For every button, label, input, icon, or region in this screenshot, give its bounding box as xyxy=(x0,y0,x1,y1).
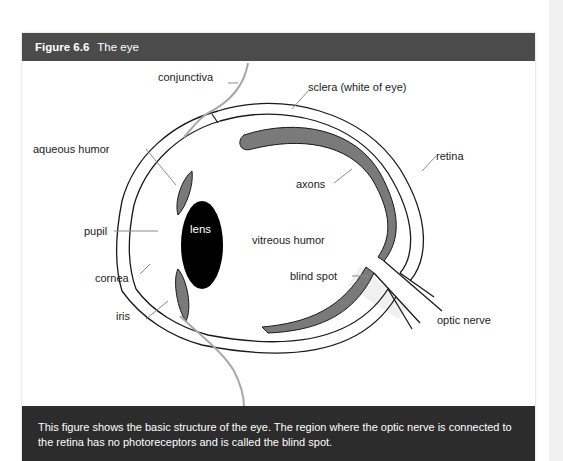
figure-number: Figure 6.6 xyxy=(35,41,89,53)
iris-lower xyxy=(176,269,189,321)
eye-diagram: conjunctiva sclera (white of eye) aqueou… xyxy=(22,61,535,406)
label-sclera: sclera (white of eye) xyxy=(308,81,406,94)
figure-title: The eye xyxy=(97,41,139,53)
label-iris: iris xyxy=(116,310,130,323)
figure-box: Figure 6.6 The eye xyxy=(22,33,535,461)
sclera-inner xyxy=(136,114,411,341)
label-axons: axons xyxy=(296,178,325,191)
figure-caption: This figure shows the basic structure of… xyxy=(22,406,535,461)
iris-upper xyxy=(177,171,192,215)
figure-header: Figure 6.6 The eye xyxy=(22,33,535,61)
page-gutter xyxy=(0,0,21,461)
label-vitreous-humor: vitreous humor xyxy=(252,234,325,247)
label-aqueous-humor: aqueous humor xyxy=(33,143,109,156)
label-conjunctiva: conjunctiva xyxy=(158,71,213,84)
page-side-strip xyxy=(549,0,563,461)
label-lens: lens xyxy=(190,223,211,236)
optic-nerve-upper xyxy=(400,273,434,297)
label-blind-spot: blind spot xyxy=(290,270,337,283)
label-retina: retina xyxy=(436,150,464,163)
lens xyxy=(181,201,223,289)
label-optic-nerve: optic nerve xyxy=(437,314,491,327)
label-pupil: pupil xyxy=(84,225,107,238)
label-cornea: cornea xyxy=(95,272,129,285)
